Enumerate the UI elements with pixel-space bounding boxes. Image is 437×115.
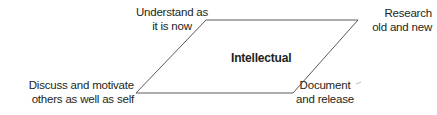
bottom-right-line-2: and release (296, 92, 354, 106)
corner-label-bottom-right: Document and release (296, 78, 354, 106)
stray-mark (356, 82, 361, 84)
bottom-right-line-1: Document (296, 78, 354, 92)
top-left-line-1: Understand as (128, 5, 216, 19)
bottom-left-line-1: Discuss and motivate (8, 78, 134, 92)
bottom-left-line-2: others as well as self (8, 92, 134, 106)
corner-label-bottom-left: Discuss and motivate others as well as s… (8, 78, 134, 106)
corner-label-top-left: Understand as it is now (128, 5, 216, 33)
top-right-line-1: Research (362, 6, 432, 20)
center-label: Intellectual (231, 51, 291, 65)
corner-label-top-right: Research old and new (362, 6, 432, 34)
top-right-line-2: old and new (362, 20, 432, 34)
top-left-line-2: it is now (128, 19, 216, 33)
